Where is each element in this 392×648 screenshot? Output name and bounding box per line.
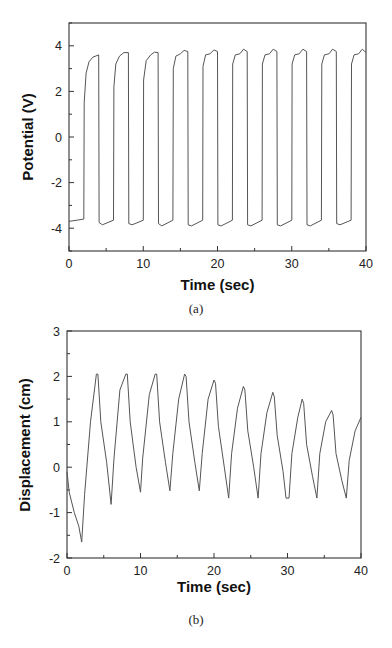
x-axis-title: Time (sec) — [177, 578, 251, 595]
x-tick-label: 20 — [207, 564, 221, 578]
x-tick-label: 10 — [136, 257, 150, 271]
axis-ticks — [67, 331, 361, 558]
caption-a: (a) — [0, 301, 392, 317]
x-tick-label: 0 — [64, 564, 71, 578]
y-tick-label: 2 — [53, 370, 60, 384]
y-axis-title: Displacement (cm) — [16, 378, 33, 511]
y-tick-label: 3 — [53, 325, 60, 339]
y-tick-label: 4 — [55, 39, 62, 53]
y-tick-label: 1 — [53, 415, 60, 429]
y-tick-label: 0 — [53, 461, 60, 475]
potential-series-line — [69, 49, 366, 226]
figure-a: 010203040-4-2024 Time (sec) Potential (V… — [0, 0, 392, 325]
plot-frame — [67, 331, 361, 558]
y-tick-label: 0 — [55, 131, 62, 145]
displacement-series-line — [67, 374, 361, 542]
y-tick-label: -2 — [49, 552, 60, 566]
x-tick-label: 20 — [211, 257, 225, 271]
x-tick-label: 10 — [134, 564, 148, 578]
y-tick-label: -1 — [49, 506, 60, 520]
displacement-chart: 010203040-2-10123 Time (sec) Displacemen… — [0, 320, 392, 610]
x-tick-label: 40 — [359, 257, 373, 271]
x-tick-label: 30 — [281, 564, 295, 578]
potential-chart: 010203040-4-2024 Time (sec) Potential (V… — [0, 0, 392, 300]
y-tick-label: 2 — [55, 85, 62, 99]
y-tick-label: -4 — [51, 222, 62, 236]
plot-area: 010203040-4-2024 — [51, 23, 373, 271]
x-tick-label: 0 — [66, 257, 73, 271]
caption-b: (b) — [0, 612, 392, 628]
x-tick-label: 30 — [285, 257, 299, 271]
x-axis-title: Time (sec) — [181, 276, 255, 293]
plot-area: 010203040-2-10123 — [49, 325, 368, 579]
y-axis-title: Potential (V) — [19, 93, 36, 181]
y-tick-label: -2 — [51, 176, 62, 190]
x-tick-label: 40 — [354, 564, 368, 578]
figure-b: 010203040-2-10123 Time (sec) Displacemen… — [0, 320, 392, 648]
